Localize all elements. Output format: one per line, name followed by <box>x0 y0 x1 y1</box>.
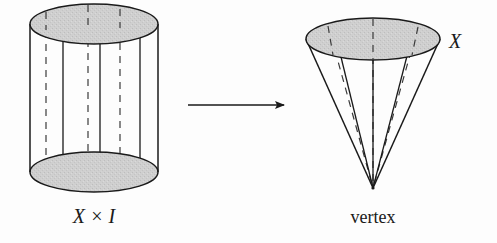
cone-apex-label: vertex <box>351 207 396 227</box>
cylinder-bottom-disc <box>30 152 158 192</box>
cylinder-top-disc <box>30 4 158 44</box>
cone-apex-point <box>371 186 374 189</box>
cylinder-shape <box>30 4 158 193</box>
cone-construction-figure: X × I X vertex <box>0 0 497 243</box>
cylinder-label: X × I <box>72 205 117 227</box>
cone-top-label: X <box>448 30 462 52</box>
